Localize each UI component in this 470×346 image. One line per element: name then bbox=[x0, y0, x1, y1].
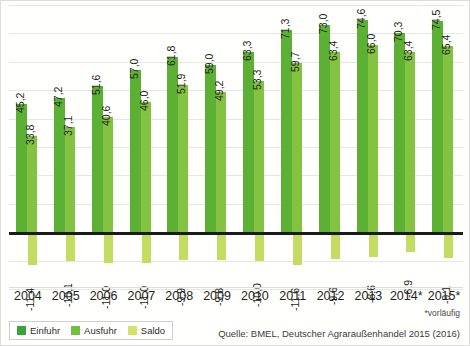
bar-group: 70,363,4-6,9 bbox=[387, 5, 425, 289]
bar-value-label-einfuhr: 45,2 bbox=[14, 92, 26, 112]
x-axis-tick-label: 2006 bbox=[85, 289, 123, 303]
bar-value-label-ausfuhr: 63,4 bbox=[327, 41, 339, 61]
bar-saldo[interactable] bbox=[293, 232, 302, 265]
bar-value-label-einfuhr: 73,0 bbox=[317, 13, 329, 33]
bar-value-label-ausfuhr: 53,3 bbox=[251, 69, 263, 89]
legend-swatch-icon-ausfuhr bbox=[71, 326, 80, 335]
bar-value-label-einfuhr: 71,3 bbox=[279, 18, 291, 38]
x-axis-tick-label: 2011 bbox=[274, 289, 312, 303]
bar-saldo[interactable] bbox=[406, 232, 415, 252]
bar-value-label-einfuhr: 74,5 bbox=[430, 9, 442, 29]
bar-saldo[interactable] bbox=[179, 232, 188, 260]
bar-value-label-ausfuhr: 40,6 bbox=[100, 105, 112, 125]
bar-group: 59,049,2-9,8 bbox=[198, 5, 236, 289]
bar-ausfuhr[interactable] bbox=[368, 45, 378, 232]
bar-group: 61,851,9-9,9 bbox=[160, 5, 198, 289]
source-note: Quelle: BMEL, Deutscher Agraraußenhandel… bbox=[218, 328, 460, 339]
bar-group: 73,063,4-9,6 bbox=[312, 5, 350, 289]
bar-value-label-ausfuhr: 66,0 bbox=[365, 33, 377, 53]
legend-label-ausfuhr: Ausfuhr bbox=[84, 325, 117, 336]
bar-value-label-ausfuhr: 37,1 bbox=[62, 115, 74, 135]
legend-swatch-icon-einfuhr bbox=[17, 326, 26, 335]
bar-saldo[interactable] bbox=[369, 232, 378, 256]
bar-value-label-ausfuhr: 65,4 bbox=[440, 35, 452, 55]
legend-item-ausfuhr[interactable]: Ausfuhr bbox=[71, 325, 117, 336]
x-axis-tick-label: 2005 bbox=[47, 289, 85, 303]
bar-group: 63,353,3-10,0 bbox=[236, 5, 274, 289]
bar-value-label-einfuhr: 59,0 bbox=[203, 53, 215, 73]
bar-value-label-ausfuhr: 46,0 bbox=[138, 90, 150, 110]
bar-value-label-einfuhr: 47,2 bbox=[52, 87, 64, 107]
bar-value-label-ausfuhr: 49,2 bbox=[213, 81, 225, 101]
bar-group: 57,046,0-11,0 bbox=[123, 5, 161, 289]
bar-value-label-ausfuhr: 59,7 bbox=[289, 51, 301, 71]
footnote-preliminary: *vorläufig bbox=[425, 308, 460, 318]
bar-value-label-einfuhr: 74,6 bbox=[355, 9, 367, 29]
bar-group: 74,666,0-8,6 bbox=[350, 5, 388, 289]
x-axis-tick-label: 2012 bbox=[312, 289, 350, 303]
plot-area: 45,233,8-11,447,237,1-10,151,640,6-11,05… bbox=[9, 5, 463, 289]
x-axis-tick-label: 2007 bbox=[123, 289, 161, 303]
bar-group: 51,640,6-11,0 bbox=[85, 5, 123, 289]
legend-item-einfuhr[interactable]: Einfuhr bbox=[17, 325, 60, 336]
x-axis-labels: 2004200520062007200820092010201120122013… bbox=[9, 289, 463, 309]
bar-ausfuhr[interactable] bbox=[178, 85, 188, 232]
legend-label-einfuhr: Einfuhr bbox=[30, 325, 60, 336]
bar-group: 71,359,7-11,6 bbox=[274, 5, 312, 289]
x-axis-tick-label: 2004 bbox=[9, 289, 47, 303]
bar-saldo[interactable] bbox=[331, 232, 340, 259]
bar-saldo[interactable] bbox=[104, 232, 113, 263]
x-axis-tick-label: 2009 bbox=[198, 289, 236, 303]
x-axis-tick-label: 2008 bbox=[160, 289, 198, 303]
bar-ausfuhr[interactable] bbox=[405, 52, 415, 232]
bar-group: 47,237,1-10,1 bbox=[47, 5, 85, 289]
bar-saldo[interactable] bbox=[255, 232, 264, 260]
bar-value-label-einfuhr: 57,0 bbox=[128, 59, 140, 79]
bar-ausfuhr[interactable] bbox=[27, 136, 37, 232]
bar-value-label-einfuhr: 51,6 bbox=[90, 74, 102, 94]
zero-baseline bbox=[9, 232, 463, 235]
bar-group: 45,233,8-11,4 bbox=[9, 5, 47, 289]
chart-legend: Einfuhr Ausfuhr Saldo bbox=[9, 321, 173, 340]
bar-ausfuhr[interactable] bbox=[254, 81, 264, 232]
x-axis-tick-label: 2015* bbox=[425, 289, 463, 303]
bar-saldo[interactable] bbox=[142, 232, 151, 263]
bar-saldo[interactable] bbox=[217, 232, 226, 260]
bar-group: 74,565,4-9,1 bbox=[425, 5, 463, 289]
bar-einfuhr[interactable] bbox=[16, 104, 27, 232]
legend-item-saldo[interactable]: Saldo bbox=[128, 325, 165, 336]
legend-label-saldo: Saldo bbox=[141, 325, 165, 336]
bar-value-label-ausfuhr: 63,4 bbox=[402, 41, 414, 61]
x-axis-tick-label: 2014* bbox=[387, 289, 425, 303]
bar-ausfuhr[interactable] bbox=[216, 92, 226, 232]
bar-value-label-einfuhr: 61,8 bbox=[165, 45, 177, 65]
bar-value-label-ausfuhr: 33,8 bbox=[24, 125, 36, 145]
bar-ausfuhr[interactable] bbox=[141, 102, 151, 233]
axis-rule bbox=[9, 287, 463, 288]
bar-value-label-einfuhr: 63,3 bbox=[241, 41, 253, 61]
bar-value-label-ausfuhr: 51,9 bbox=[175, 73, 187, 93]
bar-ausfuhr[interactable] bbox=[103, 117, 113, 232]
bar-ausfuhr[interactable] bbox=[65, 127, 75, 232]
bar-ausfuhr[interactable] bbox=[292, 63, 302, 233]
bar-saldo[interactable] bbox=[66, 232, 75, 261]
bar-value-label-einfuhr: 70,3 bbox=[392, 21, 404, 41]
bar-ausfuhr[interactable] bbox=[330, 52, 340, 232]
legend-swatch-icon-saldo bbox=[128, 326, 137, 335]
chart-frame: 45,233,8-11,447,237,1-10,151,640,6-11,05… bbox=[0, 0, 470, 346]
bar-saldo[interactable] bbox=[28, 232, 37, 264]
bar-ausfuhr[interactable] bbox=[443, 46, 453, 232]
x-axis-tick-label: 2013 bbox=[350, 289, 388, 303]
bar-saldo[interactable] bbox=[444, 232, 453, 258]
x-axis-tick-label: 2010 bbox=[236, 289, 274, 303]
bar-einfuhr[interactable] bbox=[394, 33, 405, 233]
